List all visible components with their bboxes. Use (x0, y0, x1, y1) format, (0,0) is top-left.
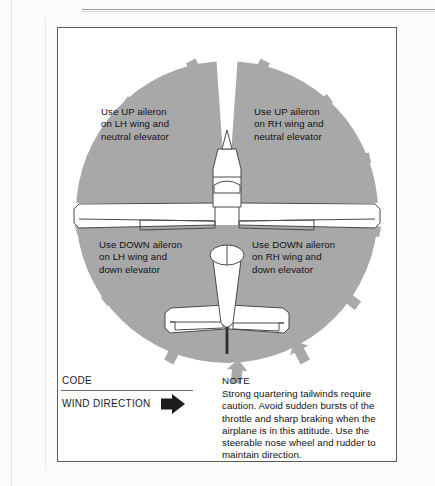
wind-direction-arrow-icon (160, 393, 186, 415)
quadrant-label-lower-right: Use DOWN aileron on RH wing and down ele… (252, 239, 335, 276)
scan-rule-top (82, 9, 435, 10)
page-gutter-line-secondary (45, 18, 46, 468)
spinner (222, 130, 232, 149)
code-heading: CODE (62, 375, 92, 386)
note-heading: NOTE (222, 375, 250, 386)
tail-cone (226, 327, 229, 354)
right-wing (239, 203, 380, 228)
scan-rule-top-secondary (82, 11, 435, 12)
quadrant-label-lower-left: Use DOWN aileron on LH wing and down ele… (99, 239, 182, 276)
wind-direction-label: WIND DIRECTION (62, 398, 151, 409)
left-wing (74, 203, 215, 228)
page-gutter-line (11, 0, 12, 486)
quadrant-label-upper-right: Use UP aileron on RH wing and neutral el… (254, 106, 324, 143)
code-divider (61, 390, 193, 391)
note-body: Strong quartering tailwinds require caut… (222, 388, 397, 462)
cowling (213, 149, 241, 207)
quadrant-label-upper-left: Use UP aileron on LH wing and neutral el… (101, 106, 169, 143)
